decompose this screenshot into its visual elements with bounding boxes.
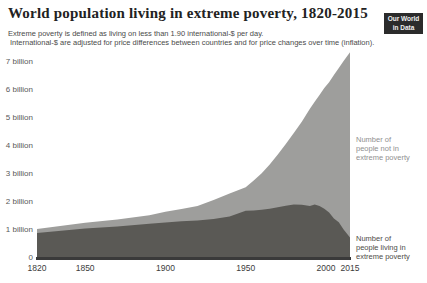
x-axis-line bbox=[36, 257, 351, 260]
annotation-in-poverty-line3: extreme poverty bbox=[356, 252, 426, 261]
owid-logo-line2: in Data bbox=[393, 24, 415, 33]
annotation-not-in-poverty-line1: Number of bbox=[356, 135, 426, 144]
annotation-in-poverty-line1: Number of bbox=[356, 234, 426, 243]
owid-logo-line1: Our World bbox=[388, 15, 420, 24]
x-axis-tick-label: 1850 bbox=[76, 263, 95, 273]
y-axis-tick-label: 6 billion bbox=[0, 85, 33, 94]
x-axis-tick-label: 2015 bbox=[341, 263, 360, 273]
y-axis-tick-label: 5 billion bbox=[0, 113, 33, 122]
y-axis-tick-label: 3 billion bbox=[0, 169, 33, 178]
owid-logo[interactable]: Our World in Data bbox=[384, 13, 423, 34]
annotation-in-poverty-line2: people living in bbox=[356, 243, 426, 252]
annotation-not-in-poverty-line2: people not in bbox=[356, 144, 426, 153]
annotation-in-poverty: Number of people living in extreme pover… bbox=[356, 234, 426, 261]
chart-subtitle-line1: Extreme poverty is defined as living on … bbox=[8, 29, 263, 38]
y-axis-tick-label: 0 bbox=[0, 253, 33, 262]
x-axis-tick-label: 1900 bbox=[156, 263, 175, 273]
x-axis-tick-label: 1820 bbox=[28, 263, 47, 273]
annotation-not-in-poverty: Number of people not in extreme poverty bbox=[356, 135, 426, 162]
y-axis-tick-label: 1 billion bbox=[0, 225, 33, 234]
chart-subtitle-line2: International-$ are adjusted for price d… bbox=[10, 38, 374, 47]
x-axis-tick-label: 2000 bbox=[316, 263, 335, 273]
annotation-not-in-poverty-line3: extreme poverty bbox=[356, 153, 426, 162]
stacked-area-chart[interactable] bbox=[37, 50, 350, 258]
chart-card: World population living in extreme pover… bbox=[0, 0, 427, 283]
plot-area bbox=[37, 50, 350, 258]
y-axis-tick-label: 7 billion bbox=[0, 57, 33, 66]
x-axis-tick-label: 1950 bbox=[236, 263, 255, 273]
chart-title: World population living in extreme pover… bbox=[8, 5, 378, 22]
y-axis-tick-label: 4 billion bbox=[0, 141, 33, 150]
y-axis-tick-label: 2 billion bbox=[0, 197, 33, 206]
